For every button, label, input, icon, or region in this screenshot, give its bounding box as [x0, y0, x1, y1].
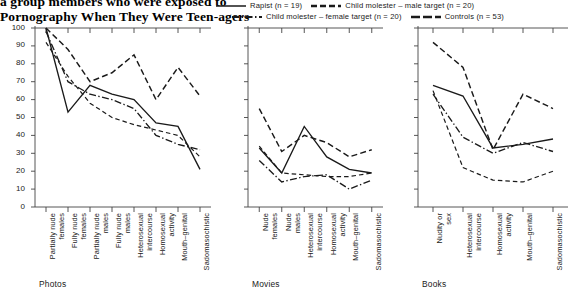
y-tick-label-70: 70: [5, 76, 25, 85]
y-tick-label-10: 10: [5, 184, 25, 193]
y-tick-label-0: 0: [5, 202, 25, 211]
y-tick-label-20: 20: [5, 166, 25, 175]
series-line-1: [433, 42, 553, 149]
chart-plot-area: [0, 0, 574, 293]
chart-figure: a group members who were exposed to Porn…: [0, 0, 574, 293]
y-tick-label-90: 90: [5, 40, 25, 49]
series-line-1: [259, 109, 372, 157]
series-line-3: [46, 42, 200, 157]
series-line-1: [46, 28, 200, 100]
series-line-3: [433, 91, 553, 182]
series-line-2: [433, 94, 553, 153]
y-tick-label-50: 50: [5, 112, 25, 121]
series-line-2: [259, 160, 372, 189]
series-line-3: [259, 146, 372, 176]
series-line-0: [433, 85, 553, 148]
series-line-0: [46, 28, 200, 169]
panel-caption-books: Books: [422, 279, 446, 289]
y-tick-label-30: 30: [5, 148, 25, 157]
series-line-2: [46, 32, 200, 150]
panel-caption-photos: Photos: [39, 279, 66, 289]
y-tick-label-100: 100: [5, 23, 25, 32]
y-tick-label-60: 60: [5, 94, 25, 103]
y-tick-label-80: 80: [5, 58, 25, 67]
panel-caption-movies: Movies: [252, 279, 280, 289]
y-tick-label-40: 40: [5, 130, 25, 139]
